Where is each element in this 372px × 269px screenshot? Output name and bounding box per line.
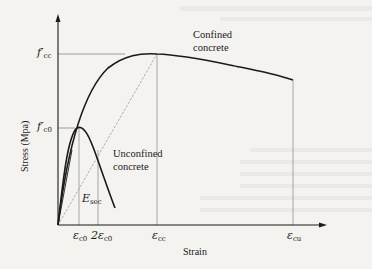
unconfined-concrete-label: Unconfined concrete <box>113 147 163 173</box>
x-tick-ecc: εcc <box>152 230 166 243</box>
confined-concrete-label: Confined concrete <box>193 28 232 54</box>
y-tick-fc0: f′c0 <box>37 121 52 134</box>
x-axis-arrow-icon <box>319 223 327 228</box>
y-axis-title: Stress (Mpa) <box>20 121 30 172</box>
x-axis-title: Strain <box>183 247 207 257</box>
stress-strain-diagram: f′cc f′c0 Stress (Mpa) εc0 2εc0 εcc εcu … <box>0 0 372 269</box>
x-tick-ec0: εc0 <box>73 230 87 243</box>
y-axis-arrow-icon <box>56 14 61 22</box>
x-tick-ecu: εcu <box>287 230 301 243</box>
diagram-graphics <box>0 0 372 269</box>
x-tick-2ec0: 2εc0 <box>91 230 112 243</box>
y-tick-fcc: f′cc <box>37 47 51 60</box>
secant-modulus-label: Esec <box>82 193 102 206</box>
